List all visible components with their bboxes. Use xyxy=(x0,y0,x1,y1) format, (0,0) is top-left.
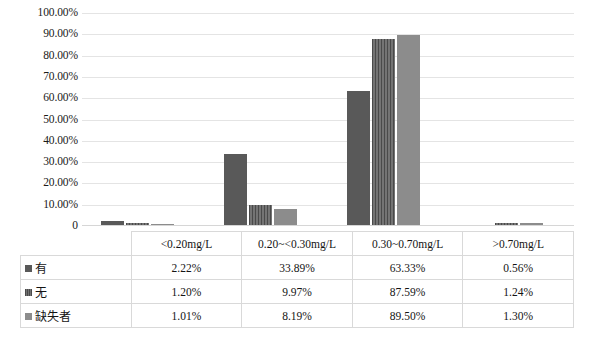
y-axis-tick-label: 70.00% xyxy=(0,71,78,83)
table-cell: 9.97% xyxy=(242,280,353,304)
legend-label: 无 xyxy=(35,286,47,300)
y-axis: 100.00%90.00%80.00%70.00%60.00%50.00%40.… xyxy=(0,0,78,232)
table-column-header: 0.30~0.70mg/L xyxy=(352,232,463,256)
table-row: 有2.22%33.89%63.33%0.56% xyxy=(21,256,574,280)
y-axis-tick-label: 50.00% xyxy=(0,114,78,126)
y-axis-tick-label: 40.00% xyxy=(0,135,78,147)
bar xyxy=(372,39,395,226)
bar xyxy=(274,209,297,226)
table-cell: 89.50% xyxy=(352,304,463,328)
legend-entry: 有 xyxy=(21,256,132,280)
data-table: <0.20mg/L0.20~<0.30mg/L0.30~0.70mg/L>0.7… xyxy=(20,231,574,328)
legend-label: 缺失者 xyxy=(35,310,71,324)
table-corner-cell xyxy=(21,232,132,256)
table-cell: 63.33% xyxy=(352,256,463,280)
table-cell: 33.89% xyxy=(242,256,353,280)
legend-swatch-icon xyxy=(25,265,32,272)
table-column-header: <0.20mg/L xyxy=(131,232,242,256)
bar-group xyxy=(328,13,451,226)
table-column-header: >0.70mg/L xyxy=(463,232,574,256)
table-cell: 87.59% xyxy=(352,280,463,304)
legend-label: 有 xyxy=(35,262,47,276)
legend-swatch-icon xyxy=(25,313,32,320)
y-axis-tick-label: 30.00% xyxy=(0,156,78,168)
table-cell: 1.01% xyxy=(131,304,242,328)
table-cell: 1.24% xyxy=(463,280,574,304)
bar-group xyxy=(82,13,205,226)
axis-baseline xyxy=(82,225,574,226)
bar-group xyxy=(451,13,574,226)
legend-entry: 缺失者 xyxy=(21,304,132,328)
legend-entry: 无 xyxy=(21,280,132,304)
table-cell: 0.56% xyxy=(463,256,574,280)
bar xyxy=(397,35,420,226)
table-cell: 1.30% xyxy=(463,304,574,328)
y-axis-tick-label: 60.00% xyxy=(0,92,78,104)
y-axis-tick-label: 80.00% xyxy=(0,50,78,62)
table-cell: 8.19% xyxy=(242,304,353,328)
legend-swatch-icon xyxy=(25,289,32,296)
y-axis-tick-label: 10.00% xyxy=(0,199,78,211)
bar xyxy=(249,205,272,226)
bar-group xyxy=(205,13,328,226)
y-axis-tick-label: 0 xyxy=(0,220,78,232)
table-cell: 2.22% xyxy=(131,256,242,280)
caption-clipped xyxy=(0,341,590,350)
plot-area xyxy=(82,13,574,226)
bar xyxy=(347,91,370,226)
y-axis-tick-label: 100.00% xyxy=(0,7,78,19)
y-axis-tick-label: 90.00% xyxy=(0,28,78,40)
table-column-header: 0.20~<0.30mg/L xyxy=(242,232,353,256)
table-row: 缺失者1.01%8.19%89.50%1.30% xyxy=(21,304,574,328)
y-axis-tick-label: 20.00% xyxy=(0,177,78,189)
table-body: 有2.22%33.89%63.33%0.56%无1.20%9.97%87.59%… xyxy=(21,256,574,328)
table-header-row: <0.20mg/L0.20~<0.30mg/L0.30~0.70mg/L>0.7… xyxy=(21,232,574,256)
table-row: 无1.20%9.97%87.59%1.24% xyxy=(21,280,574,304)
table-header: <0.20mg/L0.20~<0.30mg/L0.30~0.70mg/L>0.7… xyxy=(21,232,574,256)
bar xyxy=(224,154,247,226)
table-cell: 1.20% xyxy=(131,280,242,304)
chart-container: 100.00%90.00%80.00%70.00%60.00%50.00%40.… xyxy=(0,0,590,350)
